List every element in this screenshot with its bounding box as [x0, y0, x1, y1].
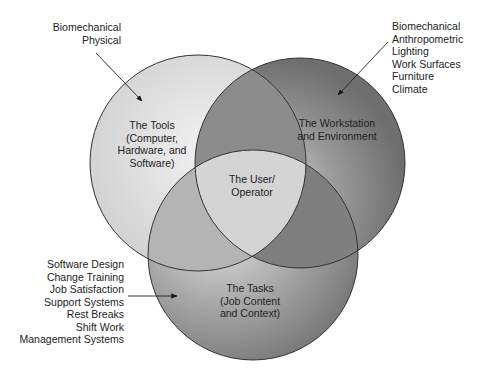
callout-item: Lighting — [392, 45, 463, 58]
callout-item: Software Design — [20, 258, 124, 271]
callout-item: Job Satisfaction — [20, 283, 124, 296]
callout-tasks: Software Design Change Training Job Sati… — [20, 258, 124, 346]
label-tools: The Tools (Computer, Hardware, and Softw… — [104, 119, 200, 169]
callout-item: Biomechanical — [392, 20, 463, 33]
callout-tools: Biomechanical Physical — [53, 21, 121, 46]
callout-item: Physical — [53, 34, 121, 47]
label-center: The User/ Operator — [217, 173, 287, 198]
callout-item: Biomechanical — [53, 21, 121, 34]
callout-item: Anthropometric — [392, 33, 463, 46]
callout-item: Work Surfaces — [392, 58, 463, 71]
callout-item: Rest Breaks — [20, 308, 124, 321]
label-workstation: The Workstation and Environment — [292, 117, 382, 142]
callout-item: Support Systems — [20, 296, 124, 309]
callout-item: Change Training — [20, 271, 124, 284]
callout-item: Management Systems — [20, 333, 124, 346]
label-tasks: The Tasks (Job Content and Context) — [205, 282, 295, 320]
callout-item: Shift Work — [20, 321, 124, 334]
callout-workstation: Biomechanical Anthropometric Lighting Wo… — [392, 20, 463, 95]
callout-item: Furniture — [392, 70, 463, 83]
callout-item: Climate — [392, 83, 463, 96]
